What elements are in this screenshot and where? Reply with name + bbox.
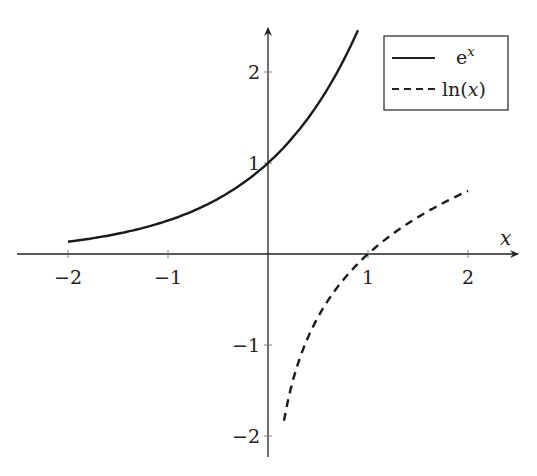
y-tick-label: −2 (232, 425, 260, 447)
exp-curve (68, 30, 358, 242)
y-tick-label: −1 (232, 334, 260, 356)
legend-label-ln: ln(x) (442, 78, 486, 100)
x-tick-label: −2 (54, 266, 82, 288)
function-plot: −2−11221−1−2 x ex ln(x) (0, 0, 537, 476)
x-tick-label: 1 (362, 266, 374, 288)
x-axis-label: x (500, 226, 511, 250)
y-tick-label: 2 (248, 61, 260, 83)
legend: ex ln(x) (384, 36, 508, 110)
x-tick-label: 2 (462, 266, 474, 288)
x-tick-label: −1 (154, 266, 182, 288)
ln-curve (284, 191, 468, 421)
